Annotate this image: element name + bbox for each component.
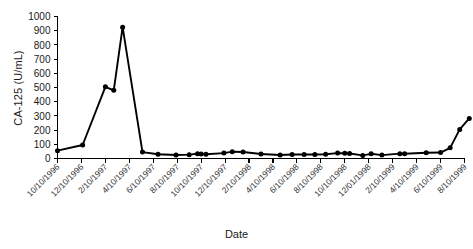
x-axis-title: Date — [0, 228, 473, 240]
data-markers — [55, 25, 472, 158]
svg-text:900: 900 — [34, 25, 51, 36]
svg-text:1000: 1000 — [28, 11, 51, 22]
svg-text:500: 500 — [34, 82, 51, 93]
ca125-line-chart: CA-125 (U/mL) Date 010020030040050060070… — [0, 0, 473, 249]
svg-text:600: 600 — [34, 68, 51, 79]
plot-area: 01002003004005006007008009001000 10/10/1… — [0, 0, 473, 249]
x-axis-ticks: 10/10/199612/10/19962/10/19974/10/19976/… — [25, 159, 469, 199]
svg-text:300: 300 — [34, 111, 51, 122]
svg-text:0: 0 — [45, 153, 51, 164]
data-line — [58, 27, 470, 155]
svg-text:100: 100 — [34, 139, 51, 150]
svg-text:800: 800 — [34, 40, 51, 51]
svg-text:400: 400 — [34, 96, 51, 107]
y-axis-title: CA-125 (U/mL) — [10, 8, 26, 168]
svg-text:700: 700 — [34, 54, 51, 65]
svg-text:200: 200 — [34, 125, 51, 136]
y-axis-ticks: 01002003004005006007008009001000 — [28, 11, 57, 164]
